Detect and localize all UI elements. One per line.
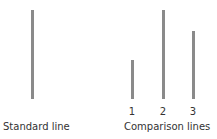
comparison-line-1 xyxy=(131,60,134,99)
standard-line xyxy=(31,10,34,99)
comparison-line-3 xyxy=(192,31,195,99)
standard-line-label: Standard line xyxy=(3,121,70,133)
comparison-line-2 xyxy=(162,10,165,99)
comparison-number-2: 2 xyxy=(157,107,169,117)
comparison-number-1: 1 xyxy=(126,107,138,117)
comparison-lines-label: Comparison lines xyxy=(124,121,210,133)
comparison-number-3: 3 xyxy=(187,107,199,117)
